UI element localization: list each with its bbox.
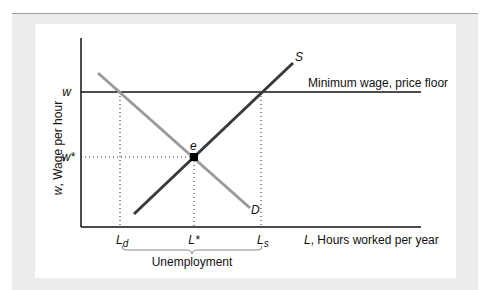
demand-curve xyxy=(98,73,250,208)
equilibrium-label: e xyxy=(190,139,197,153)
x-axis-label: L, Hours worked per year xyxy=(304,233,439,247)
supply-curve xyxy=(134,63,293,214)
Ld-tick-label: Ld xyxy=(116,233,129,249)
demand-label: D xyxy=(251,203,260,217)
minimum-wage-label: Minimum wage, price floor xyxy=(308,76,448,90)
w-tick-label: w xyxy=(62,85,72,99)
y-axis-label: w, Wage per hour xyxy=(51,101,65,195)
wstar-tick-label: w* xyxy=(62,150,76,164)
Lstar-tick-label: L* xyxy=(188,233,200,247)
labor-market-chart: w, Wage per hour w w* Ld L* Ls L, Hours … xyxy=(0,0,487,290)
equilibrium-point xyxy=(190,153,198,161)
unemployment-brace xyxy=(122,246,262,254)
unemployment-label: Unemployment xyxy=(152,255,233,269)
Ls-tick-label: Ls xyxy=(257,233,269,249)
supply-label: S xyxy=(295,50,303,64)
